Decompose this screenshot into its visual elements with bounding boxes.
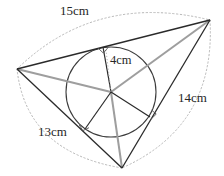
side-label-right: 14cm	[178, 90, 207, 106]
incenter-to-bottom-vertex	[111, 92, 122, 168]
inradius-label: 4cm	[110, 53, 132, 68]
triangle-side-left	[17, 69, 122, 168]
inradius-to-left-tangent	[85, 92, 111, 129]
incenter-to-left-vertex	[17, 69, 111, 92]
inradius-to-right-tangent	[111, 92, 150, 117]
geometry-canvas	[0, 0, 224, 176]
side-label-top: 15cm	[60, 3, 89, 19]
geometry-figure: 15cm 14cm 13cm 4cm	[0, 0, 224, 176]
side-label-left: 13cm	[38, 124, 67, 140]
